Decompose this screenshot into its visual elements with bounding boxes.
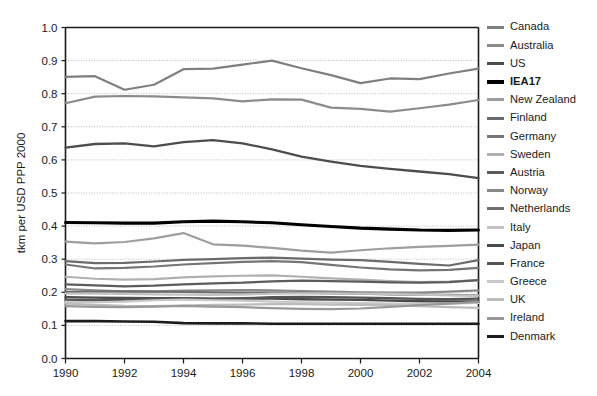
- series-line-australia: [66, 96, 479, 112]
- x-tick-label: 1992: [112, 367, 138, 379]
- legend-label: Italy: [510, 222, 531, 233]
- legend-label: New Zealand: [510, 94, 576, 105]
- series-line-us: [66, 140, 479, 178]
- legend-swatch-icon: [487, 135, 504, 138]
- legend-label: Australia: [510, 40, 554, 51]
- legend-swatch-icon: [487, 44, 504, 47]
- legend-swatch-icon: [487, 335, 504, 338]
- legend-label: Germany: [510, 131, 556, 142]
- legend-swatch-icon: [487, 244, 504, 247]
- legend-swatch-icon: [487, 117, 504, 120]
- legend-swatch-icon: [487, 171, 504, 174]
- legend-swatch-icon: [487, 80, 504, 84]
- legend-swatch-icon: [487, 280, 504, 283]
- legend-item-canada[interactable]: Canada: [487, 18, 597, 36]
- legend-item-new-zealand[interactable]: New Zealand: [487, 91, 597, 109]
- legend-label: UK: [510, 294, 526, 305]
- legend-swatch-icon: [487, 298, 504, 301]
- legend-item-japan[interactable]: Japan: [487, 236, 597, 254]
- x-tick-label: 1990: [53, 367, 79, 379]
- legend-item-austria[interactable]: Austria: [487, 164, 597, 182]
- legend-swatch-icon: [487, 98, 504, 101]
- legend-swatch-icon: [487, 62, 504, 65]
- legend-swatch-icon: [487, 207, 504, 210]
- legend-item-sweden[interactable]: Sweden: [487, 145, 597, 163]
- y-tick-label: 1.0: [42, 22, 58, 34]
- x-tick-label: 2004: [466, 367, 492, 379]
- legend-item-norway[interactable]: Norway: [487, 182, 597, 200]
- y-tick-label: 0.7: [42, 121, 58, 133]
- legend-label: Greece: [510, 276, 547, 287]
- x-tick-labels: 19901992199419961998200020022004: [53, 367, 492, 379]
- legend-label: France: [510, 258, 545, 269]
- y-tick-label: 0.5: [42, 187, 58, 199]
- y-axis-title: tkm per USD PPP 2000: [15, 133, 27, 254]
- series-line-denmark: [66, 321, 479, 324]
- y-tick-labels: 0.00.10.20.30.40.50.60.70.80.91.0: [42, 22, 59, 365]
- legend-swatch-icon: [487, 262, 504, 265]
- legend-label: Finland: [510, 112, 547, 123]
- y-tick-label: 0.2: [42, 286, 58, 298]
- legend-item-greece[interactable]: Greece: [487, 273, 597, 291]
- chart-root: 0.00.10.20.30.40.50.60.70.80.91.0 199019…: [0, 0, 597, 396]
- series-line-new-zealand: [66, 233, 479, 253]
- series-line-canada: [66, 61, 479, 90]
- legend-swatch-icon: [487, 226, 504, 229]
- y-tick-label: 0.3: [42, 253, 58, 265]
- legend-swatch-icon: [487, 26, 504, 29]
- chart-legend: CanadaAustraliaUSIEA17New ZealandFinland…: [487, 18, 597, 345]
- y-tick-label: 0.6: [42, 154, 58, 166]
- data-series-group: [66, 61, 479, 324]
- legend-label: Denmark: [510, 331, 555, 342]
- legend-item-germany[interactable]: Germany: [487, 127, 597, 145]
- legend-item-uk[interactable]: UK: [487, 291, 597, 309]
- legend-item-finland[interactable]: Finland: [487, 109, 597, 127]
- legend-item-iea17[interactable]: IEA17: [487, 73, 597, 91]
- x-tick-label: 2000: [348, 367, 374, 379]
- legend-item-denmark[interactable]: Denmark: [487, 327, 597, 345]
- legend-label: Norway: [510, 185, 548, 196]
- legend-item-france[interactable]: France: [487, 254, 597, 272]
- legend-item-australia[interactable]: Australia: [487, 36, 597, 54]
- legend-swatch-icon: [487, 153, 504, 156]
- x-tick-label: 1996: [230, 367, 256, 379]
- legend-label: Canada: [510, 21, 549, 32]
- y-axis-title-text: tkm per USD PPP 2000: [15, 133, 27, 254]
- legend-swatch-icon: [487, 189, 504, 192]
- y-tick-label: 0.9: [42, 55, 58, 67]
- series-line-italy: [66, 293, 479, 295]
- legend-item-italy[interactable]: Italy: [487, 218, 597, 236]
- legend-item-ireland[interactable]: Ireland: [487, 309, 597, 327]
- x-tick-label: 2002: [407, 367, 433, 379]
- legend-label: IEA17: [510, 76, 541, 87]
- legend-label: Austria: [510, 167, 545, 178]
- y-tick-label: 0.0: [42, 353, 58, 365]
- legend-label: Japan: [510, 240, 540, 251]
- legend-swatch-icon: [487, 317, 504, 320]
- y-tick-label: 0.4: [42, 220, 59, 232]
- legend-label: Netherlands: [510, 203, 570, 214]
- legend-item-netherlands[interactable]: Netherlands: [487, 200, 597, 218]
- y-tick-label: 0.1: [42, 319, 58, 331]
- y-tick-label: 0.8: [42, 88, 58, 100]
- x-tick-label: 1998: [289, 367, 315, 379]
- legend-label: Ireland: [510, 312, 544, 323]
- x-tick-label: 1994: [171, 367, 197, 379]
- legend-label: US: [510, 58, 526, 69]
- legend-item-us[interactable]: US: [487, 54, 597, 72]
- legend-label: Sweden: [510, 149, 550, 160]
